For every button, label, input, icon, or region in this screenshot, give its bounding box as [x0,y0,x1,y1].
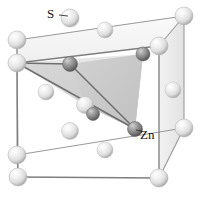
sulfur-atom [150,37,168,55]
sulfur-atom [175,7,193,25]
zinc-atom [136,47,150,61]
sulfur-atom [8,146,26,164]
zinc-atom [87,108,100,121]
sulfur-atom [165,82,181,98]
sulfur-atom [61,9,79,27]
sulfur-label: S [47,7,54,20]
sulfur-atom [8,31,26,49]
sulfur-atom [8,54,26,72]
zinc-blende-structure-figure: S Zn [0,0,203,197]
zinc-atom [63,57,78,72]
zinc-label: Zn [140,128,154,141]
sulfur-atom [9,168,27,186]
sulfur-atom [150,169,168,187]
sulfur-atom [62,123,79,140]
sulfur-atom [97,22,113,38]
sulfur-atom [97,142,113,158]
unit-cell-drawing [0,0,203,197]
sulfur-atom [38,84,54,100]
sulfur-atom [175,119,193,137]
